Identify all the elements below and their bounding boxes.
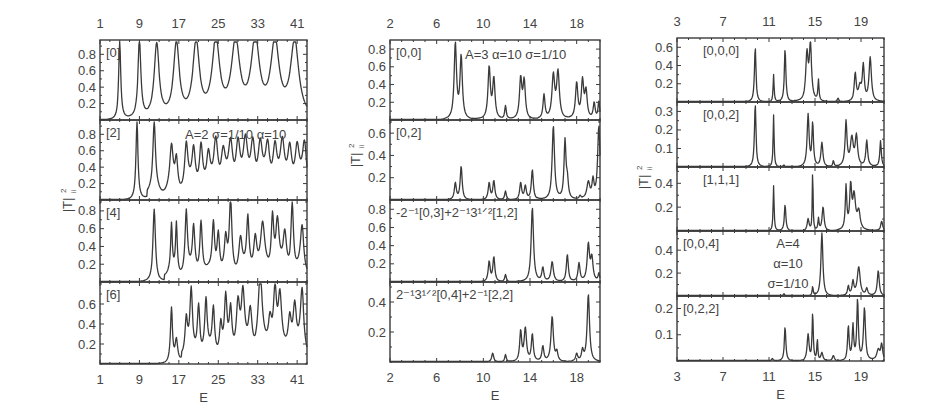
x-tick-label-top: 14 (523, 16, 537, 31)
x-tick-label-bottom: 10 (476, 370, 490, 385)
panel-label: [0,2] (396, 125, 421, 140)
x-tick-label-top: 1 (96, 16, 103, 31)
x-tick-label-bottom: 14 (523, 370, 537, 385)
y-tick-label: 0.4 (78, 317, 96, 332)
chart-panel: 0.20.40.6[6] (78, 282, 307, 364)
x-tick-label-bottom: 7 (719, 369, 726, 384)
panel-label: [4] (106, 205, 120, 220)
svg-text:ii: ii (358, 144, 365, 148)
x-tick-label-top: 9 (136, 16, 143, 31)
y-tick-label: 0.2 (655, 122, 673, 137)
y-tick-label: 0.6 (78, 143, 96, 158)
svg-text:ii: ii (70, 189, 77, 193)
svg-text:|T|: |T| (636, 175, 651, 190)
y-tick-label: 0.2 (368, 325, 386, 340)
y-tick-label: 0.2 (368, 256, 386, 271)
x-tick-label-top: 11 (762, 14, 776, 29)
right-figure: 3377111115151919E|T|2ii0.20.40.6[0,0,0]0… (635, 14, 884, 402)
x-tick-label-top: 10 (476, 16, 490, 31)
y-tick-label: 0.8 (78, 127, 96, 142)
y-tick-label: 0.2 (655, 76, 673, 91)
x-tick-label-top: 33 (250, 16, 264, 31)
parameter-annotation: A=2 σ=1/10 α=10 (185, 127, 286, 142)
chart-panel: 0.20.40.6[0,2] (368, 120, 600, 200)
svg-text:ii: ii (646, 166, 653, 170)
chart-panel: 0.20.42⁻¹3¹ᐟ²[0,4]+2⁻¹[2,2] (368, 282, 600, 362)
y-tick-label: 0.6 (78, 221, 96, 236)
svg-text:2: 2 (59, 188, 68, 193)
y-tick-label: 0.6 (368, 220, 386, 235)
y-tick-label: 0.2 (78, 337, 96, 352)
panel-label: [6] (106, 287, 120, 302)
y-tick-label: 0.6 (78, 63, 96, 78)
x-tick-label-top: 25 (211, 16, 225, 31)
x-tick-label-bottom: 3 (673, 369, 680, 384)
y-tick-label: 0.2 (655, 266, 673, 281)
y-axis-label: |T|2ii (347, 143, 365, 167)
y-tick-label: 0.6 (368, 59, 386, 74)
x-axis-label: E (491, 388, 500, 403)
panel-label: [1,1,1] (703, 172, 739, 187)
x-tick-label-bottom: 6 (433, 370, 440, 385)
transmission-curve (100, 42, 307, 120)
x-tick-label-top: 41 (290, 16, 304, 31)
x-tick-label-top: 15 (808, 14, 822, 29)
y-tick-label: 0.2 (655, 301, 673, 316)
panel-frame (100, 40, 307, 120)
panel-frame (100, 200, 307, 282)
transmission-curve (390, 126, 600, 199)
svg-text:2: 2 (347, 143, 356, 148)
panel-label: [2] (106, 125, 120, 140)
y-tick-label: 0.4 (368, 295, 386, 310)
y-tick-label: 0.1 (655, 141, 673, 156)
y-tick-label: 0.2 (78, 96, 96, 111)
x-tick-label-bottom: 17 (172, 372, 186, 387)
x-tick-label-top: 17 (172, 16, 186, 31)
parameter-annotation: σ=1/10 (768, 276, 809, 291)
y-tick-label: 0.4 (368, 77, 386, 92)
chart-panel: 0.20.40.60.8-2⁻¹[0,3]+2⁻¹3¹ᐟ²[1,2] (368, 200, 600, 282)
y-tick-label: 0.4 (655, 243, 673, 258)
chart-panel: 0.20.40.60.8[4] (78, 200, 307, 282)
chart-panel: 0.20.40.6[0,0,0] (655, 38, 884, 102)
panel-label: [0,0,2] (703, 107, 739, 122)
x-tick-label-bottom: 18 (569, 370, 583, 385)
y-tick-label: 0.2 (78, 176, 96, 191)
y-tick-label: 0.4 (655, 176, 673, 191)
panel-label: [0,2,2] (683, 301, 719, 316)
y-tick-label: 0.8 (78, 47, 96, 62)
y-tick-label: 0.3 (655, 104, 673, 119)
x-tick-label-top: 18 (569, 16, 583, 31)
x-tick-label-top: 3 (673, 14, 680, 29)
y-tick-label: 0.8 (78, 203, 96, 218)
x-axis-label: E (199, 390, 208, 405)
y-tick-label: 0.2 (368, 170, 386, 185)
parameter-annotation: A=3 α=10 σ=1/10 (465, 47, 566, 62)
chart-panel: 0.20.4[1,1,1] (655, 167, 884, 231)
y-tick-label: 0.4 (78, 160, 96, 175)
panel-label: 2⁻¹3¹ᐟ²[0,4]+2⁻¹[2,2] (396, 287, 513, 302)
y-axis-label: |T|2ii (59, 188, 77, 212)
y-tick-label: 0.4 (368, 238, 386, 253)
svg-text:|T|: |T| (348, 153, 363, 168)
y-tick-label: 0.8 (368, 202, 386, 217)
y-tick-label: 0.8 (368, 42, 386, 57)
panel-label: -2⁻¹[0,3]+2⁻¹3¹ᐟ²[1,2] (396, 205, 518, 220)
svg-text:2: 2 (635, 165, 644, 170)
transmission-curve (390, 295, 600, 362)
y-tick-label: 0.4 (655, 58, 673, 73)
x-tick-label-bottom: 15 (808, 369, 822, 384)
x-axis-label: E (776, 387, 785, 402)
y-tick-label: 0.4 (368, 148, 386, 163)
x-tick-label-bottom: 2 (386, 370, 393, 385)
y-tick-label: 0.2 (78, 257, 96, 272)
left-figure: 11991717252533334141E|T|2ii0.20.40.60.8[… (59, 16, 307, 405)
x-tick-label-bottom: 11 (762, 369, 776, 384)
panel-label: [0,0,4] (683, 236, 719, 251)
y-tick-label: 0.4 (78, 239, 96, 254)
parameter-annotation: A=4 (776, 236, 800, 251)
transmission-curve (100, 284, 307, 364)
x-tick-label-bottom: 9 (136, 372, 143, 387)
parameter-annotation: α=10 (773, 256, 803, 271)
figure-canvas: 11991717252533334141E|T|2ii0.20.40.60.8[… (0, 0, 926, 413)
